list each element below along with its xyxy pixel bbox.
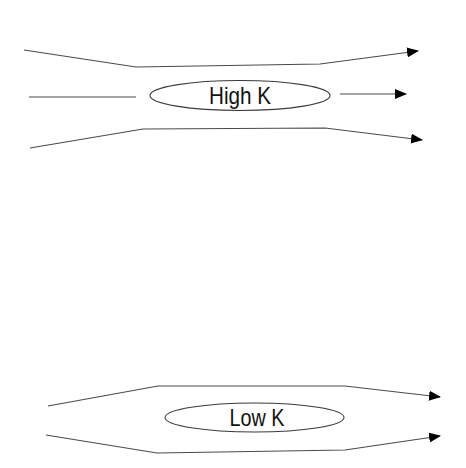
high-k-diagram: High K [24, 50, 422, 148]
high-k-label: High K [209, 82, 271, 109]
low-k-bottom-streamline-arrow-icon [46, 435, 440, 453]
high-k-top-streamline-arrow-icon [24, 50, 418, 67]
diagram-canvas: High K Low K [0, 0, 466, 468]
low-k-diagram: Low K [46, 386, 440, 453]
low-k-label: Low K [230, 404, 285, 431]
high-k-bottom-streamline-arrow-icon [30, 128, 422, 148]
